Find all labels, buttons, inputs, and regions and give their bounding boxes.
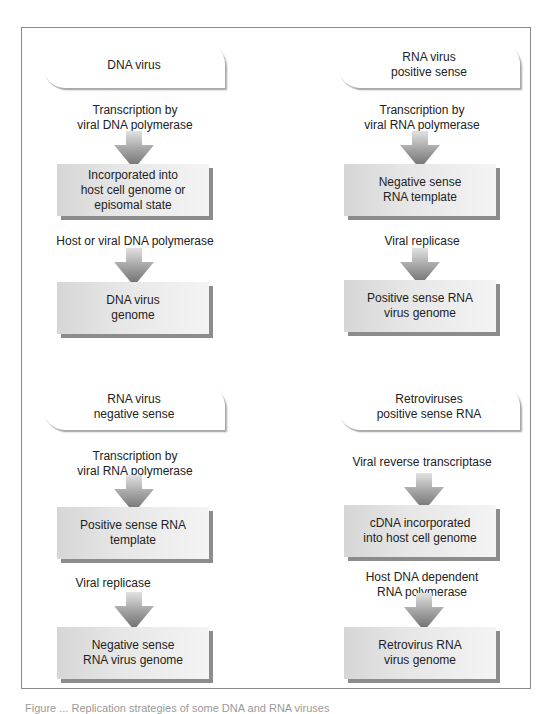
start-node-retroviruses: Retroviruses positive sense RNA	[338, 384, 520, 430]
result-box-negative-sense-rna-genome: Negative sense RNA virus genome	[57, 627, 209, 679]
result-box-positive-sense-rna-genome: Positive sense RNA virus genome	[344, 280, 496, 332]
start-node-rna-virus-positive: RNA virus positive sense	[338, 42, 520, 88]
result-box-retrovirus-rna-genome: Retrovirus RNA virus genome	[344, 627, 496, 679]
step-label-transcription-dna-polymerase: Transcription by viral DNA polymerase	[20, 103, 250, 133]
result-box-incorporated-host-genome: Incorporated into host cell genome or ep…	[57, 164, 209, 216]
result-box-cdna-incorporated: cDNA incorporated into host cell genome	[344, 505, 496, 557]
start-node-dna-virus: DNA virus	[43, 42, 225, 88]
result-box-dna-virus-genome: DNA virus genome	[57, 282, 209, 334]
down-arrow-icon	[114, 248, 154, 286]
step-label-viral-replicase: Viral replicase	[307, 234, 537, 249]
figure-caption: Figure ... Replication strategies of som…	[25, 702, 329, 714]
step-label-host-or-viral-dna-polymerase: Host or viral DNA polymerase	[20, 234, 250, 249]
step-label-viral-reverse-transcriptase: Viral reverse transcriptase	[307, 455, 537, 470]
down-arrow-icon	[404, 593, 444, 631]
step-label-viral-replicase: Viral replicase	[0, 576, 228, 591]
step-label-transcription-rna-polymerase: Transcription by viral RNA polymerase	[307, 103, 537, 133]
result-box-positive-sense-rna-template: Positive sense RNA template	[57, 507, 209, 559]
result-box-negative-sense-rna-template: Negative sense RNA template	[344, 164, 496, 216]
start-node-label: DNA virus	[107, 58, 160, 73]
down-arrow-icon	[114, 592, 154, 630]
start-node-rna-virus-negative: RNA virus negative sense	[43, 384, 225, 430]
